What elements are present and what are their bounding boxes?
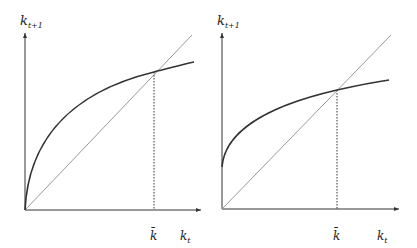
- diagram-canvas: kt+1 k̄ kt kt+1 k̄ kt: [0, 0, 417, 248]
- left-45-degree-line: [25, 35, 192, 210]
- right-45-degree-line: [222, 35, 391, 209]
- left-panel: kt+1 k̄ kt: [20, 13, 201, 245]
- left-accumulation-curve: [25, 62, 194, 210]
- right-panel: kt+1 k̄ kt: [217, 13, 399, 245]
- left-x-axis-label: kt: [180, 229, 191, 245]
- left-steady-state-label: k̄: [150, 227, 157, 243]
- right-x-axis-label: kt: [377, 229, 388, 245]
- left-y-axis-label: kt+1: [20, 13, 43, 30]
- right-steady-state-label: k̄: [333, 227, 340, 243]
- right-y-axis-label: kt+1: [217, 13, 240, 30]
